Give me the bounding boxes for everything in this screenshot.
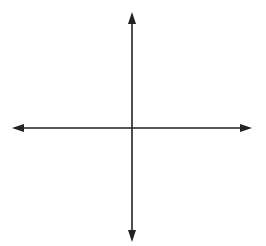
y-axis-up-arrow-icon [128,12,136,24]
axes [12,12,252,242]
coordinate-plane [0,0,266,246]
y-axis-down-arrow-icon [128,230,136,242]
x-axis-right-arrow-icon [240,124,252,132]
x-axis-left-arrow-icon [12,124,24,132]
